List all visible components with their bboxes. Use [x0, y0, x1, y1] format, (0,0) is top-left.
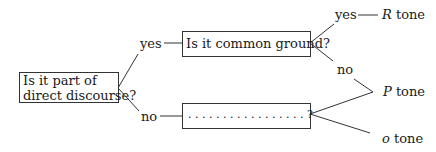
root-question-line2: direct discourse? [23, 88, 136, 103]
p-letter: P [383, 84, 392, 99]
root-question-line1: Is it part of [23, 73, 97, 88]
outcome-r-tone: R tone [382, 7, 425, 22]
outcome-p-tone: P tone [383, 84, 425, 99]
r-letter: R [382, 7, 392, 22]
o-letter: o [382, 131, 390, 146]
r-suffix: tone [392, 7, 425, 22]
o-suffix: tone [390, 131, 423, 146]
root-no-label: no [141, 109, 157, 124]
common-ground-label: Is it common ground? [186, 36, 330, 51]
outcome-o-tone: o tone [382, 131, 423, 146]
common-ground-no-label: no [337, 62, 353, 77]
unknown-question-label: . . . . . . . . . . . . . . . . . ? [188, 107, 313, 122]
common-ground-yes-label: yes [335, 7, 357, 22]
root-yes-label: yes [140, 36, 162, 51]
p-suffix: tone [392, 84, 425, 99]
